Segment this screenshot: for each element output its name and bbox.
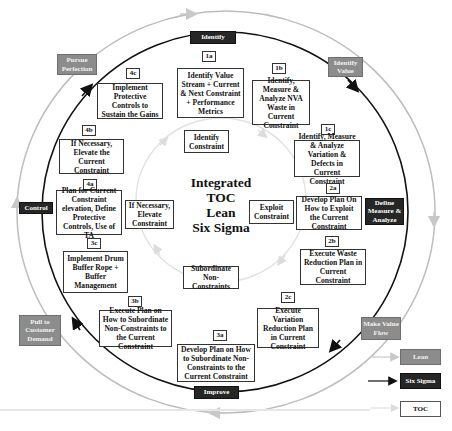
step-tag-2c: 2c (281, 292, 295, 303)
step-tag-2b: 2b (325, 236, 339, 247)
step-2c: Execute Variation Reduction Plan in Curr… (257, 308, 319, 348)
toc-subordinate-non-constraints: Subordinate Non-Constraints (183, 266, 239, 289)
step-tag-2a: 2a (326, 183, 340, 194)
lean-make-value-flow: Make Value Flow (361, 317, 401, 340)
phase-define-measure-analyze: Define Measure & Analyze (365, 198, 404, 225)
phase-improve: Improve (194, 386, 239, 399)
step-2a: Develop Plan On How to Exploit the Curre… (296, 196, 362, 230)
lean-pursue-perfection: Pursue Perfection (57, 54, 97, 75)
legend-six-sigma: Six Sigma (400, 373, 441, 389)
toc-identify-constraint: Identify Constraint (184, 130, 229, 153)
step-tag-4c: 4c (126, 68, 140, 79)
step-4c: Implement Protective Controls to Sustain… (97, 83, 163, 119)
lean-identify-value: Identify Value (328, 57, 363, 77)
step-3a: Develop Plan on How to Subordinate Non-C… (177, 344, 255, 382)
step-2b: Execute Waste Reduction Plan in Current … (300, 249, 366, 285)
step-tag-3a: 3a (213, 330, 227, 341)
phase-control: Control (19, 202, 53, 214)
step-4b: If Necessary, Elevate the Current Constr… (59, 139, 124, 174)
legend-toc: TOC (400, 401, 441, 417)
legend-lean: Lean (400, 349, 441, 365)
step-3b: Execute Plan on How to Subordinate Non-C… (99, 310, 172, 347)
center-title-line: Integrated (176, 175, 266, 190)
toc-exploit-constraint: Exploit Constraint (249, 200, 294, 224)
step-4a: Plan for Current Constraint elevation, D… (56, 190, 122, 235)
lean-pull-to-customer-demand: Pull to Customer Demand (19, 315, 61, 346)
step-3c: Implement Drum Buffer Rope + Buffer Mana… (63, 251, 128, 293)
step-1a: Identify Value Stream + Current & Next C… (177, 68, 244, 118)
integrated-toc-lean-six-sigma-diagram: Identify Define Measure & Analyze Improv… (0, 0, 452, 431)
step-tag-4b: 4b (82, 125, 96, 136)
step-tag-3c: 3c (87, 238, 101, 249)
step-tag-1a: 1a (202, 51, 216, 62)
step-tag-1b: 1b (272, 63, 286, 74)
toc-elevate-constraint: If Necessary, Elevate Constraint (125, 200, 174, 229)
step-1c: Identify, Measure & Analyze Variation & … (294, 140, 360, 177)
phase-identify: Identify (190, 31, 236, 44)
step-1b: Identify, Measure & Analyze NVA Waste in… (252, 80, 310, 125)
